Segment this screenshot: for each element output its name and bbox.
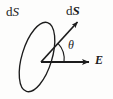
vector-flux-diagram: dS dS θ E — [0, 0, 113, 99]
surface-element-ellipse — [12, 18, 62, 96]
label-surface-element-scalar: dS — [6, 3, 19, 19]
label-electric-field: E — [95, 54, 103, 66]
label-area-vector-symbol: S — [73, 3, 80, 18]
label-area-vector: dS — [66, 2, 80, 18]
angle-arc — [58, 43, 64, 62]
label-angle-theta: θ — [68, 39, 74, 51]
label-surface-element-scalar-symbol: S — [13, 4, 20, 19]
